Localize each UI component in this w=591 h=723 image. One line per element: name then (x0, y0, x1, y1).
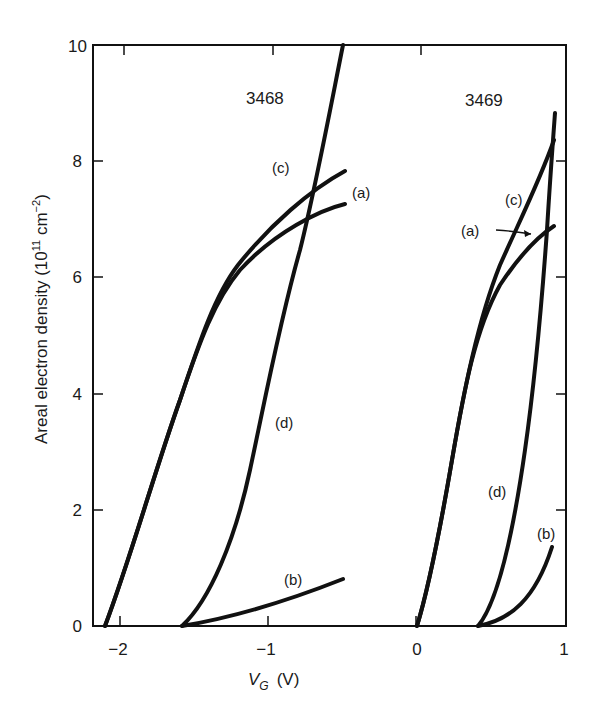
label-3469-d: (d) (488, 483, 506, 500)
y-axis-ticks-left (93, 161, 103, 626)
label-3469-a: (a) (461, 222, 479, 239)
y-tick-6: 6 (73, 268, 82, 287)
y-tick-8: 8 (73, 152, 82, 171)
y-axis-title: Areal electron density (1011 cm−2) (30, 194, 51, 444)
sample-3468-curves (105, 45, 345, 626)
y-tick-labels: 0 2 4 6 8 10 (68, 37, 87, 636)
y-axis-ticks-right (556, 161, 566, 510)
curve-3469-a (417, 226, 554, 626)
x-tick-neg2: −2 (108, 640, 127, 659)
label-3468-b: (b) (284, 571, 302, 588)
label-3468-c: (c) (272, 159, 290, 176)
x-axis-ticks-bottom (120, 616, 416, 626)
y-tick-0: 0 (73, 617, 82, 636)
x-tick-neg1: −1 (256, 640, 275, 659)
sample-label-3468: 3468 (246, 89, 284, 108)
label-3468-a: (a) (352, 184, 370, 201)
curve-3469-d (478, 113, 555, 626)
label-3469-c: (c) (505, 191, 523, 208)
curve-3469-b (478, 547, 552, 626)
x-tick-labels: −2 −1 0 1 (108, 640, 568, 659)
curve-3468-b (182, 579, 343, 626)
curve-3468-a (105, 204, 345, 626)
label-3468-d: (d) (275, 414, 293, 431)
x-axis-ticks-top (124, 45, 421, 55)
y-tick-2: 2 (73, 501, 82, 520)
y-tick-4: 4 (73, 385, 82, 404)
label-3469-b: (b) (537, 525, 555, 542)
y-tick-10: 10 (68, 37, 87, 56)
x-axis-title: VG(V) (248, 670, 299, 693)
x-tick-1: 1 (559, 640, 568, 659)
x-tick-0: 0 (412, 640, 421, 659)
sample-3469-curves (417, 113, 555, 626)
plot-frame (93, 45, 566, 626)
curve-3468-d (182, 45, 343, 626)
sample-label-3469: 3469 (465, 91, 503, 110)
chart-canvas: 0 2 4 6 8 10 −2 −1 0 1 VG(V) Areal elect… (0, 0, 591, 723)
